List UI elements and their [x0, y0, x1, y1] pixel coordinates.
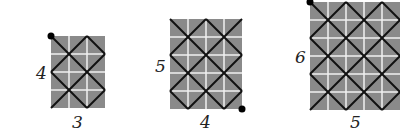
billiard-path-diagram	[51, 36, 105, 108]
grid-4x5	[170, 19, 242, 109]
height-label: 4	[36, 63, 47, 83]
height-label: 6	[295, 47, 306, 67]
width-label: 3	[72, 112, 83, 132]
width-label: 5	[350, 112, 361, 132]
billiard-path-diagram	[170, 19, 242, 109]
height-label: 5	[155, 56, 166, 76]
grid-5x6	[310, 2, 400, 110]
start-dot	[239, 106, 246, 113]
start-dot	[48, 33, 55, 40]
billiard-path-diagram	[310, 2, 400, 110]
width-label: 4	[200, 112, 211, 132]
grid-3x4	[51, 36, 105, 108]
